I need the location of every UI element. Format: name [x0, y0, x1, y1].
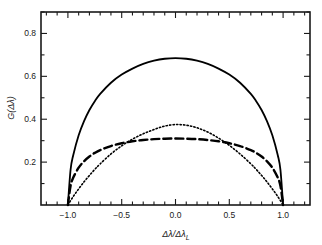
curve-dashed [68, 139, 283, 205]
x-tick-label: 1.0 [277, 210, 289, 220]
data-curves [68, 58, 283, 205]
y-tick-label: 0.2 [24, 157, 36, 167]
plot-frame [41, 12, 310, 205]
figure: −1.0−0.50.00.51.0 0.20.40.60.8 Δλ/ΔλL G(… [0, 0, 322, 245]
y-tick-label: 0.4 [24, 114, 36, 124]
gain-profile-chart: −1.0−0.50.00.51.0 0.20.40.60.8 Δλ/ΔλL G(… [0, 0, 322, 245]
y-tick-label: 0.6 [24, 71, 36, 81]
x-tick-label: 0.0 [170, 210, 182, 220]
svg-text:G(Δλ): G(Δλ) [6, 96, 16, 119]
x-tick-label: 0.5 [223, 210, 235, 220]
axis-ticks [41, 12, 310, 205]
x-axis-label: Δλ/ΔλL [161, 229, 189, 241]
y-axis-label: G(Δλ) [6, 96, 16, 119]
y-tick-labels: 0.20.40.60.8 [24, 28, 36, 167]
y-tick-label: 0.8 [24, 28, 36, 38]
x-tick-label: −1.0 [60, 210, 77, 220]
svg-text:Δλ/ΔλL: Δλ/ΔλL [161, 229, 189, 241]
x-tick-label: −0.5 [113, 210, 130, 220]
x-tick-labels: −1.0−0.50.00.51.0 [60, 210, 290, 220]
curve-solid [68, 58, 283, 205]
curve-dotted [68, 125, 283, 205]
